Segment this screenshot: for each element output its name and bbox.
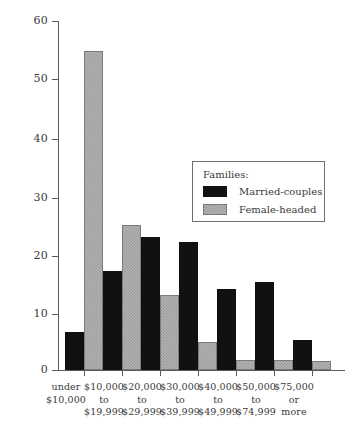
y-axis-label-60: 60: [34, 15, 48, 26]
bar-female-headed-7: [312, 361, 331, 370]
x-axis-tick-7: [312, 371, 313, 376]
grouped-bar-chart: 60 50 40 30 20 10 0 under $10,000: [0, 0, 359, 431]
bar-female-headed-2: [122, 225, 141, 370]
bar-married-couples-7: [293, 340, 312, 370]
bar-married-couples-1: [65, 332, 84, 370]
x-axis-tick-1: [84, 371, 85, 376]
y-axis-label-30: 30: [34, 192, 48, 203]
legend-swatch-female-headed-icon: [203, 204, 227, 215]
y-axis-tick-40: [52, 139, 58, 140]
y-axis-tick-10: [52, 314, 58, 315]
bar-female-headed-3: [160, 295, 179, 370]
legend-label-female-headed: Female-headed: [239, 204, 316, 215]
bar-female-headed-4: [198, 342, 217, 370]
bar-married-couples-5: [217, 289, 236, 370]
y-axis-tick-50: [52, 79, 58, 80]
bar-female-headed-6: [274, 360, 293, 370]
bar-married-couples-4: [179, 242, 198, 370]
bar-female-headed-1: [84, 51, 103, 370]
x-axis-line: [58, 370, 345, 371]
chart-legend: Families: Married-couples Female-headed: [192, 161, 325, 222]
x-axis-tick-6: [274, 371, 275, 376]
bar-married-couples-2: [103, 271, 122, 370]
bar-female-headed-5: [236, 360, 255, 370]
legend-swatch-married-couples-icon: [203, 186, 227, 197]
legend-title: Families:: [203, 169, 249, 180]
y-axis-tick-30: [52, 198, 58, 199]
bar-married-couples-3: [141, 237, 160, 370]
y-axis-tick-20: [52, 256, 58, 257]
y-axis-tick-0: [52, 370, 58, 371]
y-axis-label-50: 50: [34, 73, 48, 84]
x-axis-tick-4: [198, 371, 199, 376]
legend-label-married-couples: Married-couples: [239, 186, 322, 197]
bar-married-couples-6: [255, 282, 274, 370]
x-axis-label-line2: or: [269, 394, 319, 407]
x-axis-tick-5: [236, 371, 237, 376]
x-axis-tick-2: [122, 371, 123, 376]
x-axis-label-75000-or-more: $75,000 or more: [269, 381, 319, 419]
y-axis-tick-60: [52, 21, 58, 22]
x-axis-label-line1: $75,000: [269, 381, 319, 394]
y-axis-label-40: 40: [34, 133, 48, 144]
y-axis-label-0: 0: [41, 364, 48, 375]
x-axis-tick-3: [160, 371, 161, 376]
x-axis-label-line3: more: [269, 406, 319, 419]
y-axis-label-10: 10: [34, 308, 48, 319]
y-axis-label-20: 20: [34, 250, 48, 261]
